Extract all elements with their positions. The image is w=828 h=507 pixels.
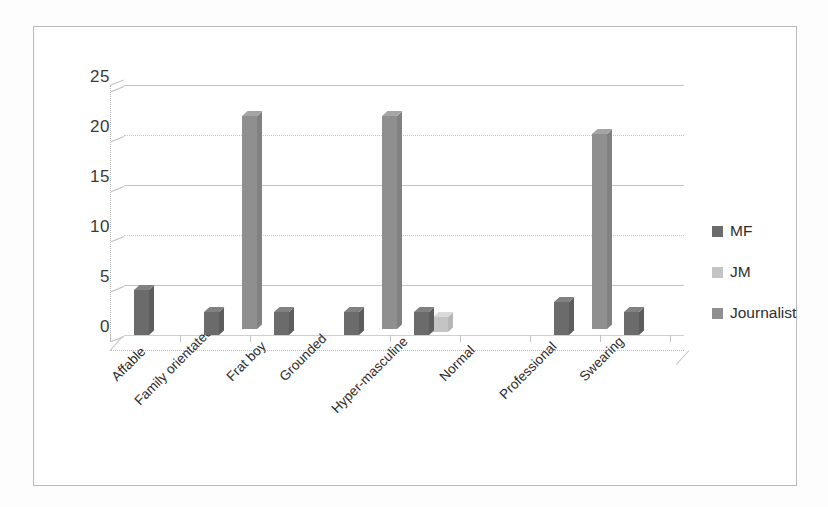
y-axis-line xyxy=(110,85,111,337)
bar-jm-4 xyxy=(433,317,448,332)
y-axis-tick-label: 25 xyxy=(80,67,110,87)
x-axis-category-labels: AffableFamily orientatedFrat boyGrounded… xyxy=(67,327,767,507)
legend-item-mf[interactable]: MF xyxy=(712,222,822,240)
legend-item-jm[interactable]: JM xyxy=(712,263,822,281)
bar-mf-1 xyxy=(204,312,219,335)
category-label: Normal xyxy=(436,343,477,384)
bar-mf-4 xyxy=(414,312,429,335)
y-axis-tick-label: 20 xyxy=(80,117,110,137)
legend-swatch-icon xyxy=(712,308,723,319)
category-label: Professional xyxy=(496,339,559,402)
legend-label: Journalist xyxy=(730,304,796,322)
category-label: Hyper-masculine xyxy=(328,334,410,416)
legend-swatch-icon xyxy=(712,267,723,278)
y-axis-depth-edge xyxy=(110,79,124,86)
y-axis-tick-label: 10 xyxy=(80,217,110,237)
y-axis-tick-label: 15 xyxy=(80,167,110,187)
legend-label: MF xyxy=(730,222,752,240)
bar-journalist-6 xyxy=(592,134,607,329)
category-label: Affable xyxy=(108,344,148,384)
chart-legend: MFJMJournalist xyxy=(712,222,822,345)
category-label: Frat boy xyxy=(223,338,269,384)
chart-frame: 0510152025 AffableFamily orientatedFrat … xyxy=(33,26,797,486)
bar-series-container xyxy=(124,85,684,335)
legend-label: JM xyxy=(730,263,751,281)
bar-mf-0 xyxy=(134,290,149,335)
category-label: Grounded xyxy=(276,331,329,384)
bar-journalist-3 xyxy=(382,116,397,329)
bar-mf-2 xyxy=(274,312,289,335)
category-label: Family orientated xyxy=(131,324,215,408)
legend-swatch-icon xyxy=(712,226,723,237)
bar-journalist-1 xyxy=(242,116,257,329)
category-label: Swearing xyxy=(576,334,626,384)
legend-item-journalist[interactable]: Journalist xyxy=(712,304,822,322)
bar-mf-7 xyxy=(624,312,639,335)
y-axis-tick-label: 5 xyxy=(80,267,110,287)
y-axis-labels: 0510152025 xyxy=(78,77,110,329)
bar-mf-3 xyxy=(344,312,359,335)
bar-mf-6 xyxy=(554,302,569,335)
